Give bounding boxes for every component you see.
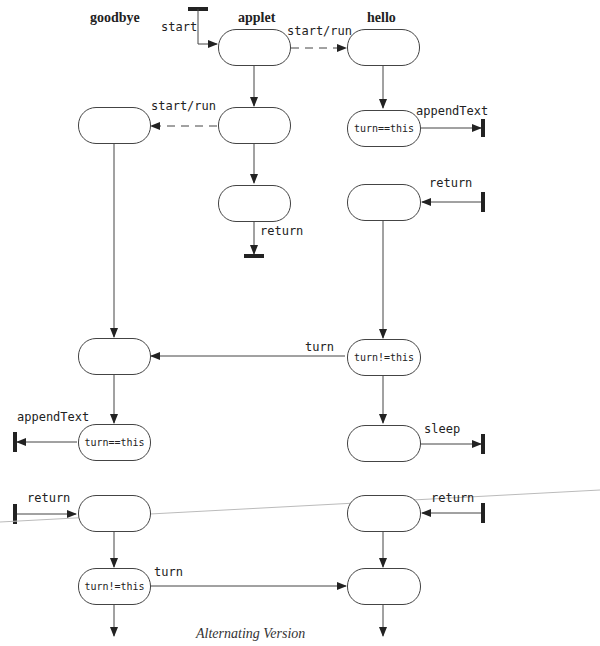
edge-label-turn-2: turn bbox=[154, 565, 183, 579]
edge-label-return-applet: return bbox=[260, 224, 303, 238]
edge-label-turn-1: turn bbox=[305, 340, 334, 354]
state-hello-4: turn!=this bbox=[347, 339, 421, 376]
state-hello-6 bbox=[347, 495, 421, 532]
state-goodbye-2 bbox=[78, 338, 151, 375]
edge-label-start-run-hello: start/run bbox=[287, 24, 352, 38]
state-hello-5 bbox=[347, 425, 421, 462]
state-diagram: goodbye applet hello turn==this turn!=th… bbox=[0, 0, 600, 646]
state-hello-1 bbox=[347, 29, 420, 66]
edge-label-start-run-goodbye: start/run bbox=[151, 99, 216, 113]
figure-caption: Alternating Version bbox=[196, 626, 305, 642]
state-hello-3 bbox=[347, 184, 421, 221]
state-goodbye-5: turn!=this bbox=[78, 568, 151, 605]
state-hello-7 bbox=[347, 568, 421, 605]
state-goodbye-3: turn==this bbox=[78, 424, 151, 461]
state-applet-1 bbox=[218, 29, 291, 66]
edge-label-sleep: sleep bbox=[424, 422, 460, 436]
edge-label-start: start bbox=[161, 20, 197, 34]
edge-label-appendtext-hello: appendText bbox=[416, 104, 488, 118]
diagram-lines bbox=[0, 0, 600, 646]
edge-label-return-hello-2: return bbox=[431, 491, 474, 505]
state-hello-2: turn==this bbox=[347, 110, 421, 147]
column-header-applet: applet bbox=[238, 10, 275, 26]
column-header-goodbye: goodbye bbox=[90, 10, 140, 26]
column-header-hello: hello bbox=[367, 10, 396, 26]
edge-label-return-goodbye: return bbox=[27, 491, 70, 505]
state-goodbye-1 bbox=[78, 107, 151, 144]
edge-label-appendtext-goodbye: appendText bbox=[17, 410, 89, 424]
state-applet-3 bbox=[218, 185, 291, 222]
state-applet-2 bbox=[218, 107, 291, 144]
edge-label-return-hello-1: return bbox=[429, 176, 472, 190]
state-goodbye-4 bbox=[78, 495, 151, 532]
